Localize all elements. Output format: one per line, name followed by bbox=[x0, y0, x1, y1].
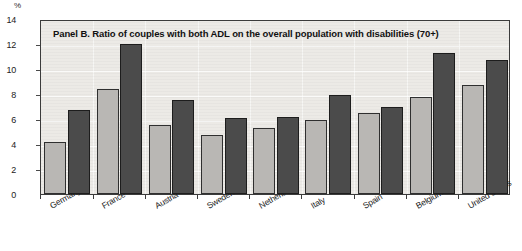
y-axis-tick-label: 10 bbox=[0, 65, 16, 75]
x-axis-tick-mark bbox=[406, 195, 407, 199]
x-axis-tick-mark bbox=[354, 195, 355, 199]
bars-container bbox=[41, 21, 509, 194]
bar-group bbox=[358, 21, 404, 194]
bar-group bbox=[201, 21, 247, 194]
bar-light-bar-netherlands bbox=[253, 128, 275, 194]
bar-group bbox=[253, 21, 299, 194]
x-axis-tick-mark bbox=[93, 195, 94, 199]
x-axis-tick-mark bbox=[40, 195, 41, 199]
x-axis-tick-mark bbox=[145, 195, 146, 199]
bar-group bbox=[305, 21, 351, 194]
y-axis-tick-label: 2 bbox=[0, 165, 16, 175]
bar-light-bar-united-states bbox=[462, 85, 484, 194]
bar-light-bar-spain bbox=[358, 113, 380, 194]
bar-group bbox=[97, 21, 143, 194]
bar-dark-bar-belgium bbox=[433, 53, 455, 194]
plot-area: Panel B. Ratio of couples with both ADL … bbox=[40, 20, 510, 195]
x-axis-tick-mark bbox=[197, 195, 198, 199]
bar-dark-bar-germany bbox=[68, 110, 90, 194]
bar-dark-bar-united-states bbox=[486, 60, 508, 194]
bar-dark-bar-spain bbox=[381, 107, 403, 195]
bar-group bbox=[149, 21, 195, 194]
chart-page: % 02468101214 Panel B. Ratio of couples … bbox=[0, 0, 522, 251]
bar-light-bar-austria bbox=[149, 125, 171, 194]
x-axis-tick-mark bbox=[301, 195, 302, 199]
bar-light-bar-france bbox=[97, 89, 119, 194]
y-axis-tick-label: 12 bbox=[0, 40, 16, 50]
y-axis-tick-label: 6 bbox=[0, 115, 16, 125]
bar-dark-bar-netherlands bbox=[277, 117, 299, 195]
x-axis-label-italy: Italy bbox=[309, 195, 327, 211]
bar-dark-bar-sweden bbox=[225, 118, 247, 194]
y-axis-tick-label: 14 bbox=[0, 15, 16, 25]
bar-light-bar-italy bbox=[305, 120, 327, 194]
y-axis-tick-label: 8 bbox=[0, 90, 16, 100]
bar-light-bar-sweden bbox=[201, 135, 223, 194]
panel-title: Panel B. Ratio of couples with both ADL … bbox=[53, 28, 439, 39]
y-axis: 02468101214 bbox=[0, 0, 40, 251]
bar-light-bar-germany bbox=[44, 142, 66, 195]
bar-light-bar-belgium bbox=[410, 97, 432, 195]
x-axis-tick-mark bbox=[249, 195, 250, 199]
x-axis-label-spain: Spain bbox=[361, 192, 384, 211]
x-axis: GermanyFranceAustriaSwedenNetherlandsIta… bbox=[40, 195, 510, 251]
y-axis-tick-label: 4 bbox=[0, 140, 16, 150]
bar-group bbox=[462, 21, 508, 194]
bar-dark-bar-austria bbox=[172, 100, 194, 194]
bar-group bbox=[410, 21, 456, 194]
bar-dark-bar-france bbox=[120, 44, 142, 194]
bar-dark-bar-italy bbox=[329, 95, 351, 194]
y-axis-tick-label: 0 bbox=[0, 190, 16, 200]
bar-group bbox=[44, 21, 90, 194]
x-axis-tick-mark bbox=[458, 195, 459, 199]
